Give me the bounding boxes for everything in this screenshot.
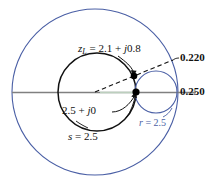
wavelength-upper-leader <box>173 58 180 61</box>
label-wavelength-lower: 0.250 <box>180 86 205 97</box>
label-real-impedance-imag-value: 0 <box>91 104 97 116</box>
label-real-impedance: 2.5 + j0 <box>62 105 96 116</box>
label-swr-equals: = 2.5 <box>72 130 97 142</box>
label-real-impedance-value: 2.5 + <box>62 104 87 116</box>
smith-chart-figure: zL = 2.1 + j0.8 0.220 0.250 2.5 + j0 s =… <box>0 0 218 185</box>
label-load-impedance: zL = 2.1 + j0.8 <box>78 43 141 56</box>
label-zl-equals: = 2.1 + <box>87 42 124 54</box>
label-resistance-equals: = 2.5 <box>143 117 166 128</box>
label-resistance-circle: r = 2.5 <box>139 118 166 128</box>
marker-load-impedance[interactable] <box>131 73 138 80</box>
zl-leader-arrow <box>118 56 134 72</box>
real-impedance-leader-secondary <box>126 95 136 118</box>
label-swr-circle: s = 2.5 <box>68 131 98 142</box>
swr-label-leader <box>76 121 88 128</box>
marker-real-axis-point[interactable] <box>132 88 139 95</box>
label-wavelength-upper: 0.220 <box>180 52 205 63</box>
label-zl-imag-value: 0.8 <box>127 42 141 54</box>
